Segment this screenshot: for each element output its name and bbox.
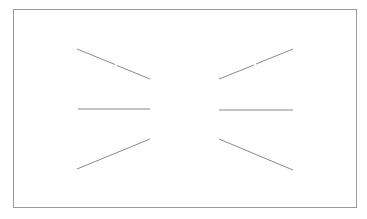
line-bottom-left bbox=[77, 139, 150, 169]
line-top-left-a bbox=[77, 49, 115, 65]
line-top-left-b bbox=[117, 66, 150, 80]
radiating-lines bbox=[0, 0, 367, 219]
diagram-canvas bbox=[0, 0, 367, 219]
line-top-right-b bbox=[256, 49, 293, 64]
line-top-right-a bbox=[219, 65, 254, 79]
line-bottom-right bbox=[219, 139, 293, 170]
